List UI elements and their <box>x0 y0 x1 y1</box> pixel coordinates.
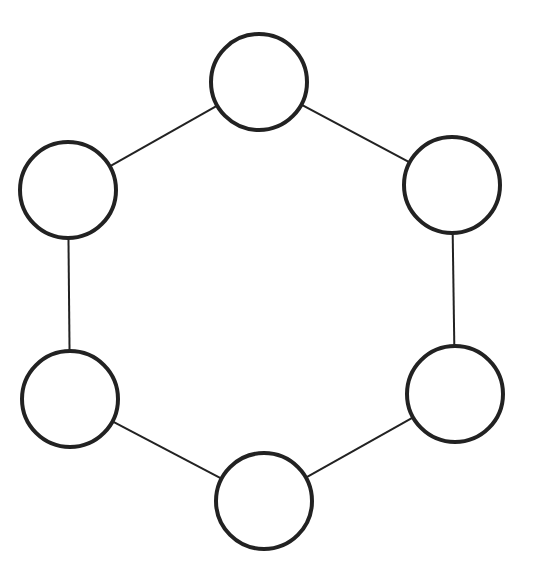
node-upper-right <box>404 137 500 233</box>
edge-n1-n2 <box>301 105 409 163</box>
node-lower-right <box>407 346 503 442</box>
nodes-group <box>20 34 503 549</box>
node-upper-left <box>20 142 116 238</box>
edges-group <box>68 105 454 479</box>
node-top <box>211 34 307 130</box>
edge-n6-n1 <box>110 106 217 167</box>
edge-n3-n4 <box>306 417 413 477</box>
hexagon-cycle-diagram <box>0 0 536 567</box>
node-bottom <box>216 453 312 549</box>
edge-n4-n5 <box>112 421 221 478</box>
edge-n2-n3 <box>453 233 455 346</box>
node-lower-left <box>22 351 118 447</box>
edge-n5-n6 <box>68 238 69 351</box>
